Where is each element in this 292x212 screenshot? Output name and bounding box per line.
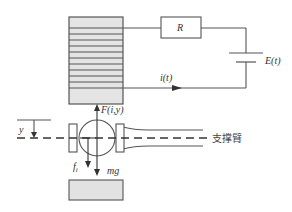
force-label: F(i,y) bbox=[100, 104, 124, 116]
displacement-arrow-icon bbox=[31, 132, 37, 138]
base-block bbox=[69, 180, 123, 200]
gravity-label: mg bbox=[107, 165, 119, 176]
resistor: R bbox=[161, 17, 201, 38]
current-label: i(t) bbox=[160, 72, 173, 84]
friction-arrow-icon bbox=[85, 161, 91, 168]
diagram-canvas: R E(t) i(t) y 支撑臂 F(i,y) mg fi bbox=[0, 0, 292, 212]
arm-label: 支撑臂 bbox=[212, 132, 242, 144]
resistor-label: R bbox=[176, 22, 183, 33]
source-label: E(t) bbox=[264, 55, 281, 67]
force-arrow-icon bbox=[94, 104, 100, 111]
voltage-source bbox=[229, 53, 263, 62]
current-arrow-icon bbox=[172, 85, 182, 91]
displacement-label: y bbox=[18, 124, 24, 135]
friction-label: fi bbox=[73, 161, 78, 174]
electromagnet-coil bbox=[69, 17, 123, 104]
gravity-arrow-icon bbox=[94, 169, 100, 176]
